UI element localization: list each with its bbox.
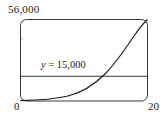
chart-figure: 56,000 0 20 y = 15,000	[0, 0, 167, 121]
annotation-value: 15,000	[57, 59, 86, 70]
x-axis-min-label: 0	[14, 101, 20, 112]
annotation-equals: =	[46, 59, 57, 70]
y-axis-max-label: 56,000	[8, 4, 39, 15]
x-axis-max-label: 20	[148, 101, 159, 112]
threshold-line-annotation: y = 15,000	[41, 60, 86, 71]
